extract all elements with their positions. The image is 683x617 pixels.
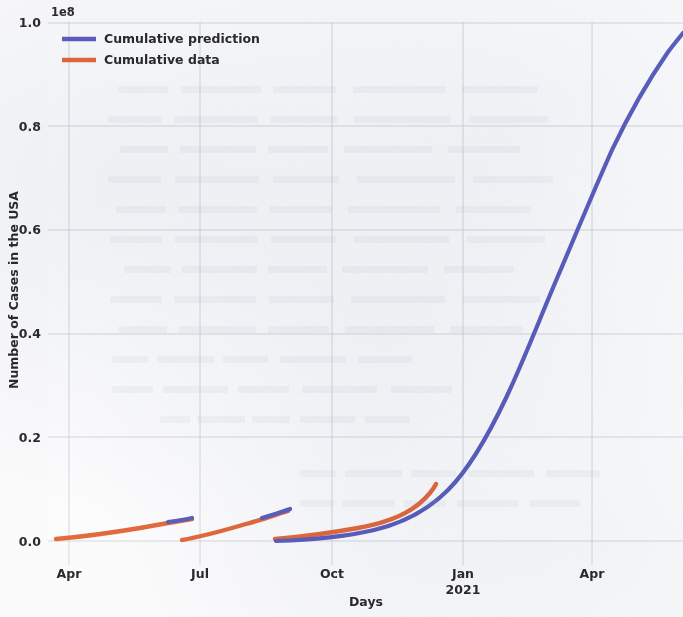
y-tick-label-0_4: 0.4 (19, 326, 41, 341)
x-tick-labels: Apr Jul Oct Jan 2021 Apr (57, 566, 606, 597)
cumulative-cases-chart: 1.0 0.8 0.6 0.4 0.2 0.0 1e8 Apr Jul Oct … (0, 0, 683, 617)
x-tick-label-jul-2020: Jul (190, 566, 209, 581)
y-tick-label-0_6: 0.6 (19, 222, 41, 237)
legend-label-cumulative-data: Cumulative data (104, 52, 220, 67)
y-axis-title: Number of Cases in the USA (6, 191, 21, 389)
y-axis-offset-label: 1e8 (51, 5, 75, 19)
y-tick-label-0_0: 0.0 (19, 534, 41, 549)
x-tick-label-jan-2021-year: 2021 (446, 582, 481, 597)
x-tick-label-oct-2020: Oct (320, 566, 344, 581)
x-tick-label-apr-2020: Apr (57, 566, 83, 581)
plot-background (48, 22, 683, 541)
y-tick-labels: 1.0 0.8 0.6 0.4 0.2 0.0 (19, 15, 41, 549)
y-tick-label-0_8: 0.8 (19, 119, 41, 134)
y-tick-label-1_0: 1.0 (19, 15, 41, 30)
y-tick-label-0_2: 0.2 (19, 430, 41, 445)
x-tick-label-jan-2021: Jan (451, 566, 474, 581)
x-axis-title: Days (349, 594, 383, 609)
x-tick-label-apr-2021: Apr (580, 566, 606, 581)
legend-label-cumulative-prediction: Cumulative prediction (104, 31, 260, 46)
